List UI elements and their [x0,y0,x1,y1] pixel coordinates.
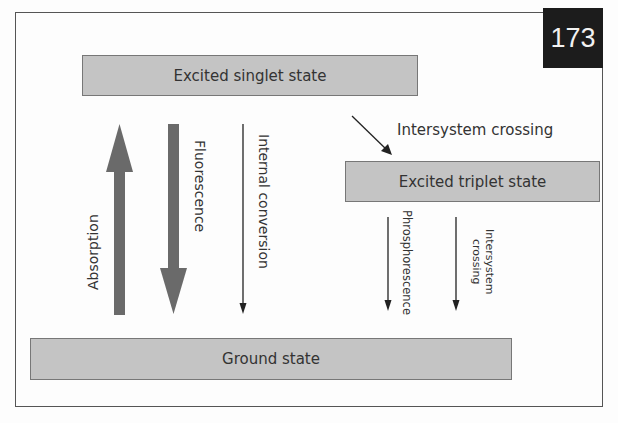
internal-conversion-arrow-icon [240,124,247,314]
absorption-label: Absorption [85,214,101,290]
intersystem-crossing-label: Intersystem crossing [397,121,553,139]
phosphorescence-arrow-icon [385,217,392,311]
intersystem-crossing-lower-line1: Intersystem [483,229,496,295]
internal-conversion-label: Internal conversion [256,134,272,269]
transition-arrows [0,0,618,423]
intersystem-crossing-lower-label: Intersystem crossing [470,229,496,295]
intersystem-crossing-diagonal-arrow-icon [352,116,392,155]
absorption-arrow-icon [106,124,133,315]
fluorescence-label: Fluorescence [192,140,208,232]
fluorescence-arrow-icon [160,124,187,314]
intersystem-crossing-lower-arrow-icon [453,217,460,311]
phosphorescence-label: Phrosphorescence [400,210,413,315]
intersystem-crossing-lower-line2: crossing [470,229,483,295]
